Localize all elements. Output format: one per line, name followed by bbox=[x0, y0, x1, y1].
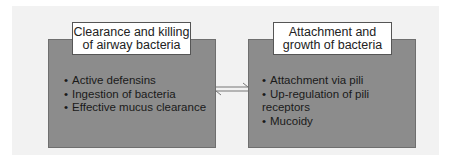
list-item: Effective mucus clearance bbox=[64, 101, 206, 115]
title-line: of airway bacteria bbox=[83, 39, 181, 52]
clearance-box: Active defensins Ingestion of bacteria E… bbox=[48, 39, 216, 148]
attachment-title: Attachment and growth of bacteria bbox=[273, 22, 392, 55]
list-item: Attachment via pili bbox=[262, 74, 415, 88]
equilibrium-arrow-icon bbox=[216, 82, 248, 96]
list-item: Up-regulation of pili receptors bbox=[262, 88, 415, 115]
title-line: growth of bacteria bbox=[283, 39, 382, 52]
list-item: Active defensins bbox=[64, 74, 206, 88]
title-line: Attachment and bbox=[289, 26, 377, 39]
list-item: Ingestion of bacteria bbox=[64, 88, 206, 102]
clearance-title: Clearance and killing of airway bacteria bbox=[72, 22, 191, 55]
title-line: Clearance and killing bbox=[73, 26, 189, 39]
attachment-list: Attachment via pili Up-regulation of pil… bbox=[262, 74, 415, 128]
clearance-list: Active defensins Ingestion of bacteria E… bbox=[64, 74, 206, 115]
attachment-box: Attachment via pili Up-regulation of pil… bbox=[248, 39, 416, 148]
list-item: Mucoidy bbox=[262, 115, 415, 129]
